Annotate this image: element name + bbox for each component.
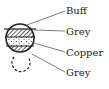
- dashed-lower-ball: [12, 57, 30, 72]
- leader-line-buff: [27, 11, 65, 25]
- leader-line-grey-lower: [32, 54, 65, 72]
- label-copper: Copper: [66, 47, 103, 58]
- label-buff: Buff: [66, 5, 88, 16]
- leader-line-grey-upper: [34, 30, 65, 31]
- label-grey-upper: Grey: [66, 26, 91, 37]
- label-grey-lower: Grey: [66, 67, 91, 78]
- leader-line-copper: [34, 43, 65, 52]
- color-band-diagram: Buff Grey Copper Grey: [0, 0, 109, 89]
- band-grey-lower: [0, 46, 40, 56]
